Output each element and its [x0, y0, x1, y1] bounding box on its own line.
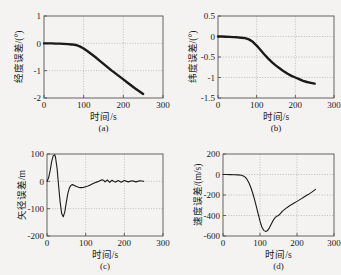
y-tick-label: 0: [215, 169, 220, 179]
x-tick-label: 200: [288, 100, 302, 110]
y-axis-label: 纬度误差/(°): [187, 31, 199, 84]
panel-caption: (b): [270, 123, 281, 133]
y-tick-label: 0: [210, 32, 215, 42]
x-tick-label: 200: [290, 238, 304, 248]
x-tick-label: 300: [327, 238, 341, 248]
x-tick-label: 300: [327, 100, 341, 110]
y-tick-label: 0: [40, 176, 45, 186]
panel-caption: (d): [273, 261, 284, 271]
data-curve: [223, 174, 316, 231]
x-axis-label: 时间/s: [262, 111, 289, 122]
y-tick-label: 0.5: [203, 11, 215, 21]
x-axis-label: 时间/s: [90, 111, 117, 122]
chart-c: 0100200300-200-1000100时间/s矢径误差/m(c): [0, 138, 170, 275]
plot-frame: [47, 154, 163, 236]
x-tick-label: 100: [249, 100, 263, 110]
y-tick-label: 200: [206, 149, 220, 159]
x-tick-label: 100: [253, 238, 267, 248]
x-axis-label: 时间/s: [265, 249, 292, 260]
y-axis-label: 速度误差/(m/s): [192, 163, 204, 226]
y-axis-label: 经度误差/(°): [13, 31, 25, 84]
x-tick-label: 100: [77, 100, 91, 110]
y-tick-label: -100: [28, 203, 45, 213]
data-curve: [218, 37, 315, 84]
y-tick-label: -600: [203, 231, 220, 241]
y-tick-label: 100: [31, 149, 45, 159]
chart-a: 0100200300-2-101时间/s经度误差/(°)(a): [0, 0, 170, 137]
data-curve: [47, 154, 144, 216]
y-tick-label: 1: [37, 11, 42, 21]
x-tick-label: 100: [79, 238, 93, 248]
y-tick-label: -200: [203, 190, 220, 200]
x-tick-label: 0: [45, 238, 50, 248]
x-tick-label: 200: [117, 100, 131, 110]
subplot-d: 0100200300-600-400-2000200时间/s速度误差/(m/s)…: [171, 138, 341, 275]
y-axis-label: 矢径误差/m: [16, 169, 27, 220]
x-tick-label: 0: [220, 238, 225, 248]
x-tick-label: 300: [156, 238, 170, 248]
y-tick-label: -1: [207, 73, 215, 83]
y-tick-label: -200: [28, 231, 45, 241]
y-tick-label: -1.5: [200, 93, 215, 103]
x-tick-label: 0: [215, 100, 220, 110]
x-tick-label: 300: [156, 100, 170, 110]
panel-caption: (a): [99, 123, 109, 133]
plot-frame: [44, 16, 163, 98]
x-tick-label: 0: [42, 100, 47, 110]
x-tick-label: 200: [118, 238, 132, 248]
figure-grid: 0100200300-2-101时间/s经度误差/(°)(a) 01002003…: [0, 0, 341, 275]
y-tick-label: 0: [37, 39, 42, 49]
subplot-b: 0100200300-1.5-1-0.500.5时间/s纬度误差/(°)(b): [171, 0, 341, 137]
chart-b: 0100200300-1.5-1-0.500.5时间/s纬度误差/(°)(b): [171, 0, 341, 137]
subplot-a: 0100200300-2-101时间/s经度误差/(°)(a): [0, 0, 170, 137]
panel-caption: (c): [100, 261, 110, 271]
y-tick-label: -1: [34, 66, 42, 76]
x-axis-label: 时间/s: [92, 249, 119, 260]
y-tick-label: -2: [34, 93, 42, 103]
subplot-c: 0100200300-200-1000100时间/s矢径误差/m(c): [0, 138, 170, 275]
chart-d: 0100200300-600-400-2000200时间/s速度误差/(m/s)…: [171, 138, 341, 275]
data-curve: [44, 43, 143, 94]
y-tick-label: -400: [203, 210, 220, 220]
y-tick-label: -0.5: [200, 52, 215, 62]
